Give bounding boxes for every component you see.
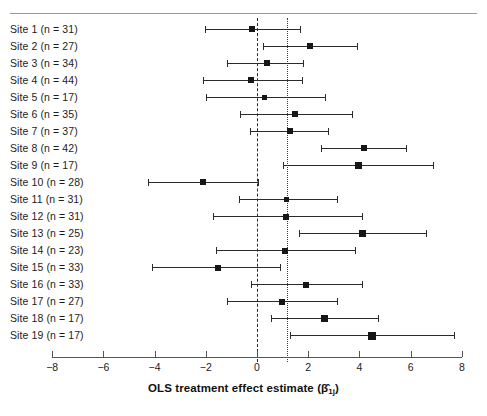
row-label-site-12: Site 12 (n = 31) bbox=[10, 211, 84, 221]
x-axis-ticklabel: 6 bbox=[396, 362, 426, 373]
point-estimate-marker bbox=[282, 248, 288, 254]
x-axis-line bbox=[52, 357, 462, 358]
row-label-site-10: Site 10 (n = 28) bbox=[10, 177, 84, 187]
x-axis-tick bbox=[206, 351, 207, 357]
point-estimate-marker bbox=[303, 282, 309, 288]
x-axis-ticklabel: 8 bbox=[447, 362, 477, 373]
point-estimate-marker bbox=[264, 60, 270, 66]
ci-cap-upper bbox=[337, 196, 338, 203]
ci-cap-upper bbox=[454, 332, 455, 339]
x-axis-tick bbox=[359, 351, 360, 357]
ci-cap-upper bbox=[352, 111, 353, 118]
beta-hat-symbol: β̂ bbox=[321, 382, 328, 394]
ci-cap-lower bbox=[203, 77, 204, 84]
x-axis-ticklabel: 2 bbox=[293, 362, 323, 373]
x-axis-tick bbox=[155, 351, 156, 357]
ci-cap-upper bbox=[337, 298, 338, 305]
point-estimate-marker bbox=[321, 315, 328, 322]
point-estimate-marker bbox=[200, 179, 206, 185]
ci-cap-upper bbox=[303, 60, 304, 67]
ci-cap-upper bbox=[378, 315, 379, 322]
x-axis-title: OLS treatment effect estimate (β̂1j) bbox=[0, 382, 487, 396]
x-axis-tick bbox=[257, 351, 258, 357]
pooled-estimate-line bbox=[287, 18, 288, 362]
ci-cap-lower bbox=[271, 315, 272, 322]
ci-cap-upper bbox=[302, 77, 303, 84]
ci-cap-upper bbox=[325, 94, 326, 101]
ci-cap-lower bbox=[240, 111, 241, 118]
ci-cap-lower bbox=[239, 196, 240, 203]
x-axis-tick bbox=[52, 351, 53, 357]
ci-cap-lower bbox=[290, 332, 291, 339]
row-label-site-8: Site 8 (n = 42) bbox=[10, 143, 78, 153]
ci-cap-lower bbox=[216, 247, 217, 254]
ci-cap-upper bbox=[426, 230, 427, 237]
row-label-site-5: Site 5 (n = 17) bbox=[10, 92, 78, 102]
zero-line bbox=[257, 18, 258, 362]
ci-cap-upper bbox=[362, 281, 363, 288]
ci-cap-upper bbox=[406, 145, 407, 152]
row-label-site-9: Site 9 (n = 17) bbox=[10, 160, 78, 170]
row-label-site-11: Site 11 (n = 31) bbox=[10, 194, 83, 204]
x-axis-ticklabel: −4 bbox=[140, 362, 170, 373]
x-axis-ticklabel: −8 bbox=[37, 362, 67, 373]
beta-subscript: 1j bbox=[328, 387, 335, 396]
point-estimate-marker bbox=[279, 299, 285, 305]
point-estimate-marker bbox=[292, 111, 298, 117]
row-label-site-17: Site 17 (n = 27) bbox=[10, 296, 84, 306]
point-estimate-marker bbox=[287, 128, 293, 134]
x-axis-ticklabel: 0 bbox=[242, 362, 272, 373]
ci-cap-upper bbox=[280, 264, 281, 271]
point-estimate-marker bbox=[249, 26, 255, 32]
row-label-site-18: Site 18 (n = 17) bbox=[10, 313, 84, 323]
x-axis-ticklabel: −2 bbox=[191, 362, 221, 373]
x-axis-tick bbox=[411, 351, 412, 357]
ci-cap-lower bbox=[205, 26, 206, 33]
forest-plot-figure: Site 1 (n = 31)Site 2 (n = 27)Site 3 (n … bbox=[0, 0, 487, 416]
ci-cap-lower bbox=[148, 179, 149, 186]
point-estimate-marker bbox=[248, 77, 254, 83]
ci-cap-upper bbox=[433, 162, 434, 169]
point-estimate-marker bbox=[368, 332, 376, 340]
ci-cap-lower bbox=[213, 213, 214, 220]
ci-cap-upper bbox=[258, 179, 259, 186]
ci-cap-upper bbox=[362, 213, 363, 220]
row-label-site-19: Site 19 (n = 17) bbox=[10, 330, 84, 340]
point-estimate-marker bbox=[283, 214, 289, 220]
ci-cap-lower bbox=[152, 264, 153, 271]
point-estimate-marker bbox=[361, 145, 367, 151]
ci-cap-lower bbox=[263, 43, 264, 50]
ci-cap-lower bbox=[227, 298, 228, 305]
ci-cap-upper bbox=[328, 128, 329, 135]
row-label-site-15: Site 15 (n = 33) bbox=[10, 262, 84, 272]
row-label-site-16: Site 16 (n = 33) bbox=[10, 279, 84, 289]
ci-cap-lower bbox=[227, 60, 228, 67]
ci-cap-lower bbox=[283, 162, 284, 169]
ci-cap-lower bbox=[206, 94, 207, 101]
row-label-site-2: Site 2 (n = 27) bbox=[10, 41, 78, 51]
point-estimate-marker bbox=[215, 265, 221, 271]
ci-cap-lower bbox=[250, 128, 251, 135]
row-label-site-6: Site 6 (n = 35) bbox=[10, 109, 78, 119]
row-label-site-14: Site 14 (n = 23) bbox=[10, 245, 84, 255]
ci-cap-lower bbox=[251, 281, 252, 288]
x-axis-ticklabel: −6 bbox=[88, 362, 118, 373]
plot-area: Site 1 (n = 31)Site 2 (n = 27)Site 3 (n … bbox=[0, 0, 487, 416]
row-label-site-13: Site 13 (n = 25) bbox=[10, 228, 84, 238]
ci-cap-upper bbox=[300, 26, 301, 33]
row-label-site-4: Site 4 (n = 44) bbox=[10, 75, 78, 85]
row-label-site-1: Site 1 (n = 31) bbox=[10, 24, 78, 34]
x-axis-ticklabel: 4 bbox=[344, 362, 374, 373]
ci-cap-upper bbox=[357, 43, 358, 50]
x-axis-tick bbox=[462, 351, 463, 357]
point-estimate-marker bbox=[284, 197, 289, 202]
point-estimate-marker bbox=[359, 230, 366, 237]
point-estimate-marker bbox=[307, 43, 313, 49]
point-estimate-marker bbox=[355, 162, 362, 169]
ci-cap-lower bbox=[321, 145, 322, 152]
point-estimate-marker bbox=[262, 95, 267, 100]
row-label-site-7: Site 7 (n = 37) bbox=[10, 126, 78, 136]
row-label-site-3: Site 3 (n = 34) bbox=[10, 58, 78, 68]
ci-cap-lower bbox=[299, 230, 300, 237]
ci-cap-upper bbox=[355, 247, 356, 254]
